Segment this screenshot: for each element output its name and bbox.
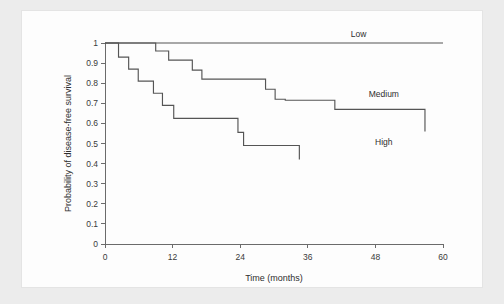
series-curve-high xyxy=(105,43,299,160)
series-label-medium: Medium xyxy=(369,89,399,99)
x-tick-label: 12 xyxy=(168,252,178,262)
series-label-high: High xyxy=(375,137,393,147)
x-tick-label: 48 xyxy=(371,252,381,262)
y-tick-label: 0.5 xyxy=(86,139,98,149)
y-tick-label: 0.6 xyxy=(86,118,98,128)
y-tick-label: 0.7 xyxy=(86,98,98,108)
y-tick-label: 0.4 xyxy=(86,159,98,169)
y-tick-label: 0 xyxy=(93,239,98,249)
x-axis-title: Time (months) xyxy=(245,273,303,283)
figure-container: 00.10.20.30.40.50.60.70.80.9101224364860… xyxy=(0,0,504,304)
x-tick-label: 0 xyxy=(103,252,108,262)
series-label-low: Low xyxy=(351,29,367,39)
y-tick-label: 1 xyxy=(93,38,98,48)
x-tick-label: 24 xyxy=(235,252,245,262)
y-tick-label: 0.9 xyxy=(86,58,98,68)
y-tick-label: 0.2 xyxy=(86,199,98,209)
y-tick-label: 0.8 xyxy=(86,78,98,88)
x-tick-label: 60 xyxy=(438,252,448,262)
y-tick-label: 0.3 xyxy=(86,179,98,189)
plot-panel: 00.10.20.30.40.50.60.70.80.9101224364860… xyxy=(22,11,482,287)
y-tick-label: 0.1 xyxy=(86,219,98,229)
x-tick-label: 36 xyxy=(303,252,313,262)
y-axis-title: Probability of disease-free survival xyxy=(63,75,73,212)
survival-chart: 00.10.20.30.40.50.60.70.80.9101224364860… xyxy=(22,11,482,287)
